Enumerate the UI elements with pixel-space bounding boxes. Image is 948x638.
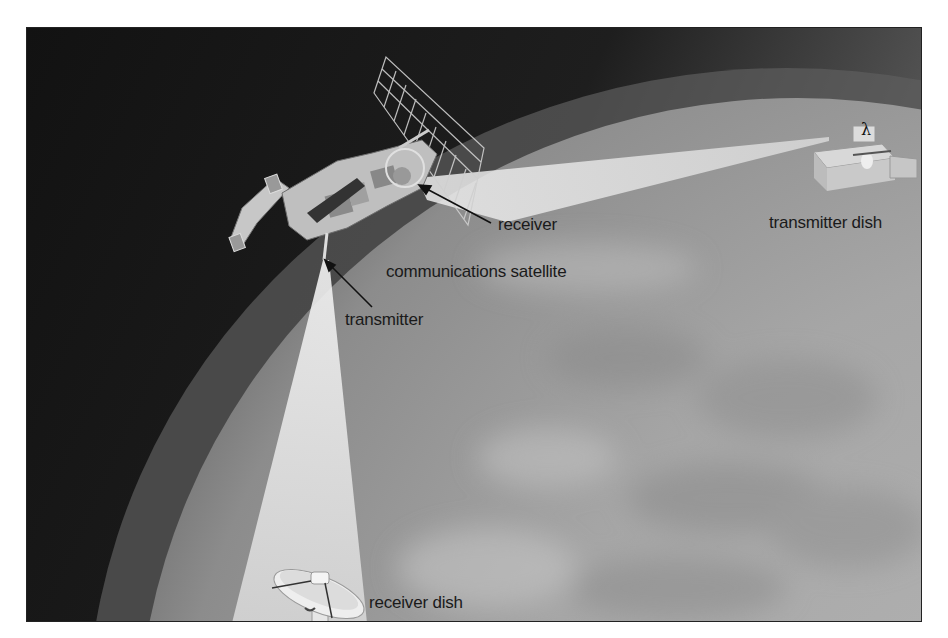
receiver-dish-label: receiver dish: [369, 593, 463, 613]
communications-satellite-label: communications satellite: [386, 262, 566, 282]
transmitter-label: transmitter: [345, 310, 423, 330]
satellite-scene: λ: [27, 28, 922, 622]
receiver-label: receiver: [498, 215, 557, 235]
transmitter-dish-label: transmitter dish: [769, 213, 882, 233]
wavelength-symbol: λ: [861, 120, 871, 139]
diagram-frame: λ receiver communications satellite tran…: [26, 27, 922, 622]
